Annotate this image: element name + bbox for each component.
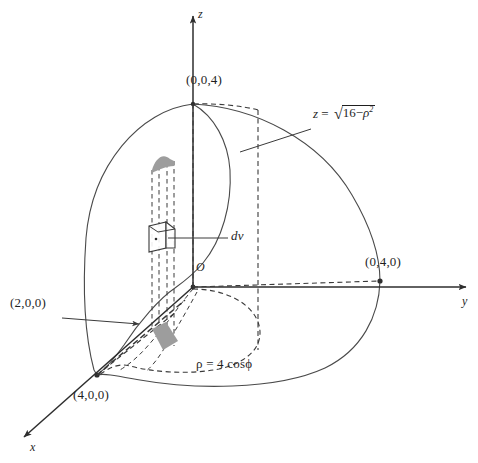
dv-front-face bbox=[149, 222, 166, 252]
point-label-x-midpoint: (2,0,0) bbox=[10, 296, 46, 309]
radicand-exponent: 2 bbox=[369, 105, 373, 114]
column-lines-group bbox=[97, 161, 197, 375]
shaded-patch-top bbox=[152, 156, 174, 173]
dv-element-box bbox=[149, 222, 175, 252]
surface-equation-lhs: z bbox=[313, 106, 318, 121]
surface-equation-equals: = bbox=[321, 106, 328, 121]
leader-lines-group bbox=[62, 129, 311, 324]
dv-center-dot bbox=[155, 238, 158, 241]
sphere-silhouette-right bbox=[193, 104, 380, 281]
y-axis-label: y bbox=[462, 295, 468, 307]
z-axis-label: z bbox=[198, 8, 203, 20]
x-axis bbox=[24, 287, 193, 437]
radicand: 16−ρ2 bbox=[342, 105, 376, 119]
leader-line-x-midpoint bbox=[62, 318, 139, 324]
point-label-x-intercept: (4,0,0) bbox=[73, 388, 109, 401]
origin-label: O bbox=[196, 261, 205, 273]
radicand-minus: − bbox=[356, 105, 363, 120]
point-label-z-intercept: (0,0,4) bbox=[186, 73, 222, 86]
point-label-y-intercept: (0,4,0) bbox=[365, 255, 401, 268]
surface-equation-radical: √16−ρ2 bbox=[332, 106, 375, 122]
dv-label: dv bbox=[231, 229, 244, 242]
surface-equation-label: z = √16−ρ2 bbox=[313, 106, 375, 122]
sphere-silhouette-left bbox=[84, 104, 193, 370]
axes-group bbox=[24, 16, 466, 437]
construction-lines-group bbox=[193, 104, 380, 350]
x-axis-label: x bbox=[30, 441, 36, 453]
polar-curve-label: ρ = 4 cosϕ bbox=[196, 357, 252, 370]
dashed-y-segment bbox=[193, 281, 380, 287]
figure-root: z y x O (0,0,4) (0,4,0) (4,0,0) (2,0,0) … bbox=[0, 0, 478, 463]
radicand-number: 16 bbox=[343, 105, 356, 120]
